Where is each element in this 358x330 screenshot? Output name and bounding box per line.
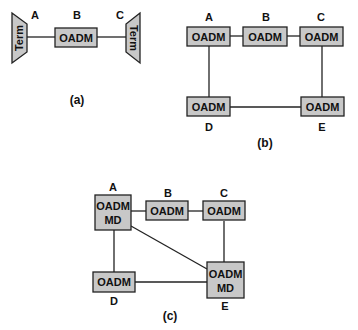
label-b: B <box>164 187 172 199</box>
oadm-node-c-label: OADM <box>305 31 339 43</box>
oadm-node-b-label: OADM <box>59 32 93 44</box>
panel-c: OADM MD OADM OADM OADM OADM MD A B C D E… <box>93 181 245 323</box>
link-a-e <box>131 226 207 269</box>
label-a: A <box>205 11 213 23</box>
oadm-node-b-label: OADM <box>150 205 184 217</box>
label-d: D <box>110 295 118 307</box>
terminal-right: Term <box>126 13 140 63</box>
label-a: A <box>109 181 117 193</box>
oadm-node-a-label: OADM <box>192 31 226 43</box>
caption-b: (b) <box>257 136 272 150</box>
oadm-md-node-e-line2: MD <box>217 282 234 294</box>
network-topology-figure: Term OADM Term A B C (a) OADM OADM OADM … <box>0 0 358 330</box>
oadm-node-e-label: OADM <box>306 101 340 113</box>
oadm-md-node-a-line1: OADM <box>96 200 130 212</box>
label-c: C <box>116 9 124 21</box>
oadm-node-c-label: OADM <box>207 205 241 217</box>
oadm-node-d-label: OADM <box>192 101 226 113</box>
panel-b: OADM OADM OADM OADM OADM A B C D E (b) <box>187 11 344 150</box>
label-e: E <box>318 121 325 133</box>
caption-c: (c) <box>163 309 178 323</box>
label-c: C <box>317 11 325 23</box>
terminal-left: Term <box>12 13 27 63</box>
oadm-node-d-label: OADM <box>97 276 131 288</box>
caption-a: (a) <box>70 93 85 107</box>
terminal-left-label: Term <box>13 25 25 51</box>
label-c: C <box>220 187 228 199</box>
oadm-md-node-a-line2: MD <box>104 214 121 226</box>
label-e: E <box>221 300 228 312</box>
terminal-right-label: Term <box>128 25 140 51</box>
oadm-md-node-e-line1: OADM <box>209 268 243 280</box>
diagram-canvas: Term OADM Term A B C (a) OADM OADM OADM … <box>0 0 358 330</box>
label-d: D <box>205 121 213 133</box>
label-b: B <box>73 9 81 21</box>
label-a: A <box>31 9 39 21</box>
label-b: B <box>262 11 270 23</box>
oadm-node-b-label: OADM <box>248 31 282 43</box>
panel-a: Term OADM Term A B C (a) <box>12 9 140 107</box>
